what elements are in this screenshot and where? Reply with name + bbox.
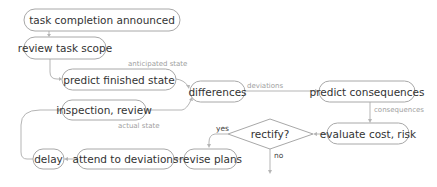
node-attend-to-deviations: attend to deviations [73, 149, 179, 169]
arrow-head-icon [64, 157, 68, 161]
svg-text:task completion announced: task completion announced [29, 14, 175, 26]
svg-text:differences: differences [188, 86, 246, 98]
node-predict-finished-state: predict finished state [62, 69, 176, 90]
node-evaluate-cost-risk: evaluate cost, risk [320, 123, 417, 144]
flowchart-canvas: anticipated state actual state deviation… [0, 0, 437, 187]
edge-rectify-yes [209, 134, 228, 146]
node-review-task-scope: review task scope [18, 37, 112, 59]
arrow-head-icon [368, 119, 372, 123]
svg-text:attend to deviations: attend to deviations [73, 153, 179, 165]
node-revise-plans: revise plans [179, 149, 242, 169]
arrow-head-icon [268, 170, 272, 174]
svg-text:predict finished state: predict finished state [63, 74, 174, 86]
edge-label-actual-state: actual state [118, 122, 160, 130]
svg-text:predict consequences: predict consequences [310, 86, 425, 98]
node-inspection-review: inspection, review [56, 100, 152, 120]
node-predict-consequences: predict consequences [310, 81, 425, 102]
svg-text:inspection, review: inspection, review [56, 104, 152, 116]
svg-text:rectify?: rectify? [251, 128, 290, 140]
node-delay: delay [33, 149, 64, 169]
edge-inspection-to-differences [146, 100, 191, 110]
edge-label-no: no [274, 151, 284, 160]
edge-label-yes: yes [216, 124, 229, 133]
edge-predict-to-differences [176, 79, 188, 86]
svg-text:delay: delay [34, 153, 63, 165]
node-differences: differences [188, 81, 246, 102]
edge-label-consequences: consequences [374, 106, 424, 114]
node-task-completion: task completion announced [24, 9, 180, 31]
arrow-head-icon [207, 144, 211, 148]
svg-text:review task scope: review task scope [18, 42, 112, 54]
svg-text:revise plans: revise plans [179, 153, 242, 165]
svg-text:evaluate cost, risk: evaluate cost, risk [320, 128, 417, 140]
node-rectify-decision: rectify? [228, 119, 313, 149]
edge-label-deviations: deviations [247, 82, 284, 90]
edge-label-anticipated-state: anticipated state [128, 60, 187, 68]
edge-review-to-predict [50, 59, 61, 79]
